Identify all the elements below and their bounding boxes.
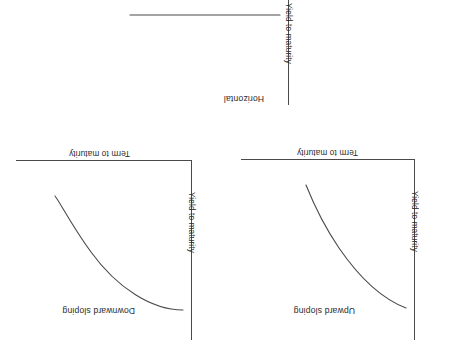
panel-horizontal: Yield to maturity Horizontal (0, 0, 456, 161)
rotated-figure-content: Yield to maturity Horizontal Term to mat… (0, 0, 456, 361)
horizontal-yield-curve (0, 0, 456, 161)
downward-panel-x-axis-label: Term to maturity (69, 149, 130, 158)
upward-panel-y-axis-label: Yield to maturity (410, 191, 419, 252)
upward-panel-title: Upward sloping (294, 306, 355, 316)
panel-upward-sloping: Term to maturity Yield to maturity Upwar… (240, 160, 415, 340)
downward-panel-y-axis-label: Yield to maturity (187, 192, 196, 253)
horizontal-panel-y-axis-label: Yield to maturity (284, 3, 293, 64)
panel-downward-sloping: Term to maturity Yield to maturity Downw… (0, 161, 192, 340)
horizontal-panel-title: Horizontal (224, 94, 264, 104)
downward-panel-title: Downward sloping (62, 306, 135, 316)
yield-curve-figure: Yield to maturity Horizontal Term to mat… (0, 0, 456, 361)
upward-panel-x-axis-label: Term to maturity (297, 148, 358, 157)
